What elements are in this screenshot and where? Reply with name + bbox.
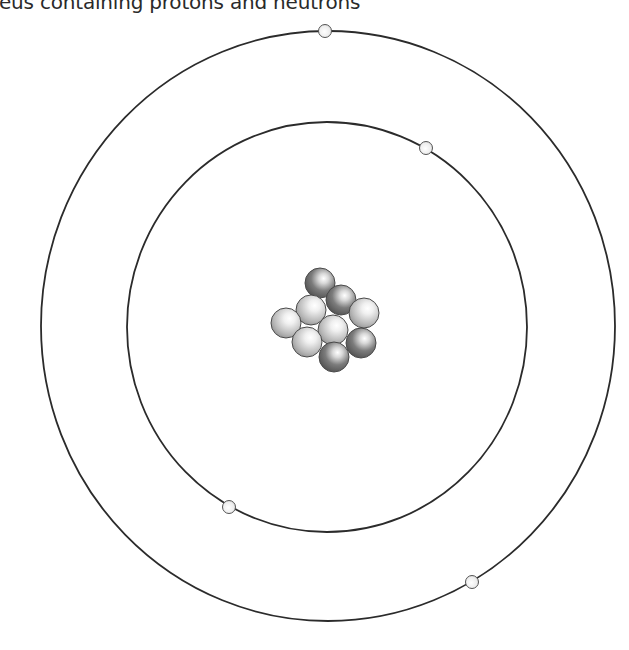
electron (466, 576, 479, 589)
nucleus (271, 268, 379, 372)
electron (319, 25, 332, 38)
proton-particle (349, 298, 379, 328)
neutron-particle (346, 328, 376, 358)
atom-diagram (0, 0, 629, 650)
proton-particle (292, 327, 322, 357)
proton-particle (318, 315, 348, 345)
electron (223, 501, 236, 514)
neutron-particle (319, 342, 349, 372)
electron (420, 142, 433, 155)
